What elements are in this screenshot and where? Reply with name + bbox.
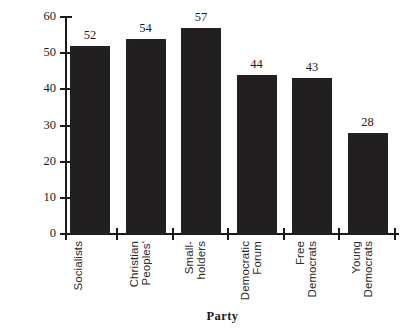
- y-tick-label: 10: [18, 191, 56, 204]
- bar-value-label: 57: [171, 11, 231, 24]
- bar-value-label: 28: [338, 116, 398, 129]
- x-axis-title: Party: [0, 309, 413, 324]
- bar-value-label: 54: [116, 22, 176, 35]
- category-label-line: Christian: [128, 241, 140, 287]
- y-tick-label: 40: [18, 82, 56, 95]
- category-label-line: Forum: [251, 241, 263, 275]
- x-tick-mark: [65, 228, 67, 240]
- bar: [292, 78, 332, 234]
- y-tick-label: 30: [18, 119, 56, 132]
- x-axis-title-text: Party: [207, 309, 239, 323]
- bar: [237, 75, 277, 234]
- bar: [348, 133, 388, 234]
- bar-value-label: 52: [60, 29, 120, 42]
- category-label-line: Socialists: [72, 241, 84, 291]
- bar: [181, 28, 221, 234]
- category-label-line: Peoples': [140, 241, 152, 286]
- bar: [70, 46, 110, 234]
- category-label-line: Democrats: [362, 241, 374, 298]
- category-label-line: holders: [195, 241, 207, 279]
- bar-chart: Average Age 0102030405060 525457444328 S…: [0, 0, 413, 333]
- x-tick-mark: [116, 228, 118, 240]
- x-tick-mark: [394, 228, 396, 240]
- category-label-line: Democratic: [239, 241, 251, 300]
- bar-value-label: 43: [282, 61, 342, 74]
- x-tick-mark: [227, 228, 229, 240]
- bar-value-label: 44: [227, 58, 287, 71]
- x-tick-mark: [172, 228, 174, 240]
- y-tick-label: 0: [18, 227, 56, 240]
- category-label-line: Young: [350, 241, 362, 274]
- y-tick-mark: [60, 16, 72, 18]
- x-tick-mark: [283, 228, 285, 240]
- category-label-line: Small-: [183, 241, 195, 274]
- category-label-line: Democrats: [306, 241, 318, 298]
- category-label-line: Free: [294, 241, 306, 265]
- y-tick-label: 20: [18, 155, 56, 168]
- y-tick-label: 50: [18, 46, 56, 59]
- x-tick-mark: [338, 228, 340, 240]
- y-tick-label: 60: [18, 10, 56, 23]
- bar: [126, 39, 166, 234]
